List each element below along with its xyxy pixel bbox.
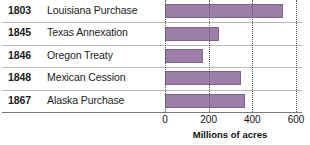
x-tick-label-600: 600 (288, 114, 305, 125)
row-event-label: Texas Annexation (47, 26, 128, 38)
row-event-label: Oregon Treaty (47, 49, 113, 61)
row-event-label: Alaska Purchase (47, 94, 124, 106)
x-tick-label-0: 0 (162, 114, 168, 125)
gridline-400 (252, 0, 253, 112)
bar-louisiana-purchase (165, 4, 283, 18)
row-event-label: Louisiana Purchase (47, 4, 137, 16)
bar-mexican-cession (165, 71, 241, 85)
row-year: 1845 (8, 26, 31, 38)
x-tick-label-200: 200 (200, 114, 217, 125)
plot-area (165, 0, 296, 112)
row-event-label: Mexican Cession (47, 71, 125, 83)
territorial-acquisitions-bar-chart: 1803Louisiana Purchase1845Texas Annexati… (0, 0, 310, 145)
bar-oregon-treaty (165, 49, 203, 63)
row-year: 1848 (8, 71, 31, 83)
gridline-0 (165, 0, 166, 112)
bar-alaska-purchase (165, 94, 245, 108)
x-tick-label-400: 400 (244, 114, 261, 125)
gridline-200 (209, 0, 210, 112)
bar-texas-annexation (165, 27, 219, 41)
x-axis-title: Millions of acres (193, 129, 267, 140)
x-axis-line (2, 112, 302, 113)
gridline-600 (296, 0, 297, 112)
row-year: 1803 (8, 4, 31, 16)
row-year: 1867 (8, 94, 31, 106)
row-year: 1846 (8, 49, 31, 61)
